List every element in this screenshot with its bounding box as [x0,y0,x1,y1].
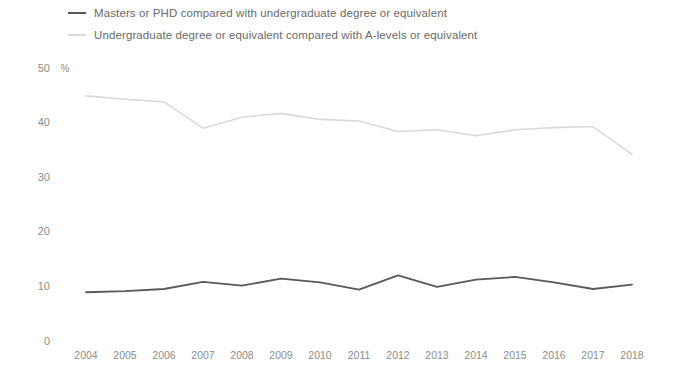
series-line-masters-phd [86,275,632,292]
x-tick-2007: 2007 [191,349,215,361]
x-tick-2018: 2018 [620,349,644,361]
y-tick-30: 30 [38,171,50,183]
y-tick-20: 20 [38,225,50,237]
x-tick-2010: 2010 [308,349,332,361]
y-axis-unit-label: % [61,63,70,74]
y-axis: % 50 40 30 20 10 0 [38,62,70,347]
x-tick-2013: 2013 [425,349,449,361]
x-tick-2009: 2009 [269,349,293,361]
plot-area: % 50 40 30 20 10 0 2004 2005 2006 2007 2… [0,0,686,385]
series-line-undergraduate [86,96,632,155]
x-tick-2008: 2008 [230,349,254,361]
x-tick-2006: 2006 [152,349,176,361]
x-tick-2004: 2004 [74,349,98,361]
line-chart: Masters or PHD compared with undergradua… [0,0,686,385]
x-tick-2014: 2014 [464,349,488,361]
y-tick-40: 40 [38,116,50,128]
x-tick-2005: 2005 [113,349,137,361]
y-tick-50: 50 [38,62,50,74]
x-axis: 2004 2005 2006 2007 2008 2009 2010 2011 … [74,349,644,361]
x-tick-2017: 2017 [581,349,605,361]
x-tick-2015: 2015 [503,349,527,361]
y-tick-10: 10 [38,280,50,292]
x-tick-2016: 2016 [542,349,566,361]
x-tick-2012: 2012 [386,349,410,361]
y-tick-0: 0 [44,335,50,347]
series-group [86,96,632,292]
x-tick-2011: 2011 [348,349,371,361]
